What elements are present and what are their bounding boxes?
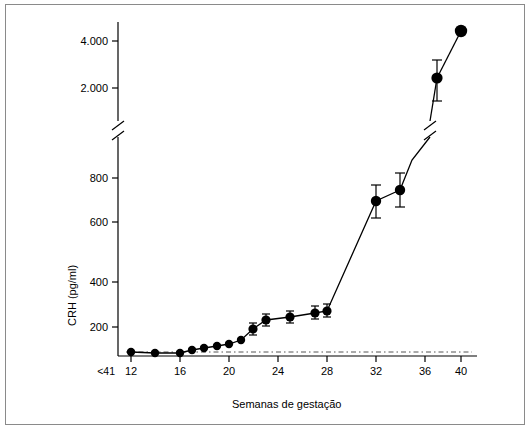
data-point: [322, 306, 331, 315]
data-point-terminal: [455, 25, 467, 37]
y-tick-label: 200: [90, 321, 108, 333]
x-axis-label: Semanas de gestação: [232, 398, 341, 410]
data-point: [127, 348, 135, 356]
x-tick-label: 20: [223, 365, 235, 377]
x-tick-label: 12: [125, 365, 137, 377]
x-tick-label: 32: [370, 365, 382, 377]
data-line-upper: [430, 78, 437, 121]
x-tick-label: 40: [455, 365, 467, 377]
data-point: [151, 349, 159, 357]
y-tick-marks: [112, 41, 118, 327]
y-axis-label-wrapper: CRH (pg/ml): [72, 130, 86, 290]
x-tick-label: 28: [321, 365, 333, 377]
x-tick-label: 24: [272, 365, 284, 377]
x-tick-label: 36: [419, 365, 431, 377]
error-bars: [249, 60, 442, 335]
data-markers: [127, 25, 467, 357]
y-tick-label: 4.000: [80, 35, 108, 47]
data-line-break-lower: [400, 137, 430, 190]
y-tick-label: 400: [90, 276, 108, 288]
data-line-lower: [131, 190, 400, 353]
data-line-terminal: [437, 31, 461, 78]
y-tick-label: 2.000: [80, 82, 108, 94]
y-tick-label: 800: [90, 172, 108, 184]
y-axis-label: CRH (pg/ml): [66, 265, 78, 326]
data-point: [261, 315, 270, 324]
data-point: [395, 185, 405, 195]
data-point: [176, 349, 184, 357]
data-point: [431, 72, 442, 83]
y-axis-break-mark-2: [112, 121, 124, 130]
data-point: [200, 344, 208, 352]
data-point: [310, 308, 319, 317]
data-line-break-mark-2: [424, 121, 436, 130]
data-point: [237, 336, 245, 344]
x-axis-start-label: <41: [97, 365, 115, 377]
y-tick-label: 600: [90, 216, 108, 228]
data-point: [188, 346, 196, 354]
chart-figure: 200 400 600 800 2.000 4.000 12 16 20 24 …: [0, 0, 530, 430]
data-line-break-mark-1: [424, 131, 436, 140]
data-point: [213, 342, 221, 350]
data-point: [225, 340, 233, 348]
data-point: [285, 312, 294, 321]
data-point: [371, 196, 381, 206]
x-tick-label: 16: [174, 365, 186, 377]
data-point: [248, 324, 257, 333]
x-tick-labels: 12 16 20 24 28 32 36 40: [125, 365, 467, 377]
